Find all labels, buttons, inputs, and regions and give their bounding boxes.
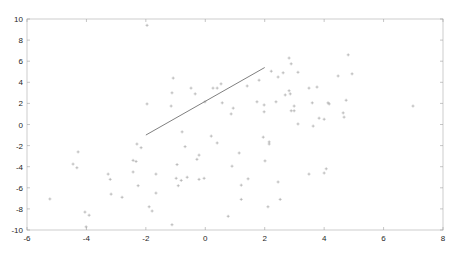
y-tick-label: -2 xyxy=(16,142,24,151)
data-point xyxy=(290,62,293,65)
data-point xyxy=(135,143,138,146)
data-point xyxy=(171,91,174,94)
data-point xyxy=(194,92,197,95)
data-point xyxy=(212,87,215,90)
data-point xyxy=(148,205,151,208)
data-point xyxy=(227,215,230,218)
data-point xyxy=(270,70,273,73)
x-tick-label: -6 xyxy=(23,234,31,243)
data-point xyxy=(293,109,296,112)
data-point xyxy=(132,159,135,162)
data-point xyxy=(411,105,414,108)
data-point xyxy=(154,192,157,195)
y-tick-label: 6 xyxy=(19,57,24,66)
y-tick-label: -10 xyxy=(11,226,23,235)
data-point xyxy=(288,89,291,92)
y-tick-label: 2 xyxy=(19,99,24,108)
data-point xyxy=(345,99,348,102)
data-point xyxy=(268,143,271,146)
data-point xyxy=(240,198,243,201)
data-point xyxy=(230,112,233,115)
data-point xyxy=(146,24,149,27)
y-tick-label: -8 xyxy=(16,205,24,214)
data-point xyxy=(75,166,78,169)
data-point xyxy=(151,210,154,213)
data-point xyxy=(240,184,243,187)
data-point xyxy=(284,93,287,96)
data-point xyxy=(190,87,193,90)
data-point xyxy=(88,214,91,217)
data-point xyxy=(171,223,174,226)
data-point xyxy=(323,118,326,121)
data-point xyxy=(83,211,86,214)
data-point xyxy=(282,71,285,74)
x-axis-labels: -6-4-202468 xyxy=(23,234,445,243)
data-point xyxy=(180,179,183,182)
data-point xyxy=(203,177,206,180)
data-point xyxy=(316,86,319,89)
x-tick-label: 4 xyxy=(322,234,327,243)
y-tick-label: 0 xyxy=(19,121,24,130)
data-point xyxy=(172,77,175,80)
data-point xyxy=(289,92,292,95)
data-point xyxy=(318,117,321,120)
fit-line xyxy=(146,68,265,136)
x-tick-label: -4 xyxy=(83,234,91,243)
data-point xyxy=(246,84,249,87)
data-point xyxy=(121,196,124,199)
data-point xyxy=(347,53,350,56)
data-point xyxy=(275,100,278,103)
y-tick-label: 10 xyxy=(14,15,23,24)
data-point xyxy=(247,177,250,180)
scatter-chart: -6-4-202468 -10-8-6-4-20246810 xyxy=(0,0,460,254)
data-point xyxy=(175,177,178,180)
data-point xyxy=(220,82,223,85)
data-point xyxy=(110,193,113,196)
data-point xyxy=(263,103,266,106)
y-tick-label: 4 xyxy=(19,78,24,87)
data-point xyxy=(307,87,310,90)
x-tick-label: -2 xyxy=(142,234,150,243)
data-point xyxy=(198,178,201,181)
data-point xyxy=(232,107,235,110)
plot-frame xyxy=(27,19,443,230)
data-point xyxy=(146,102,149,105)
x-tick-label: 8 xyxy=(441,234,446,243)
data-point xyxy=(351,72,354,75)
scatter-points xyxy=(48,24,414,229)
data-point xyxy=(85,225,88,228)
data-point xyxy=(255,100,258,103)
data-point xyxy=(221,101,224,104)
y-tick-label: -4 xyxy=(16,163,24,172)
y-tick-label: 8 xyxy=(19,36,24,45)
data-point xyxy=(293,105,296,108)
data-point xyxy=(170,105,173,108)
y-tick-label: -6 xyxy=(16,184,24,193)
data-point xyxy=(277,180,280,183)
data-point xyxy=(279,198,282,201)
data-point xyxy=(264,159,267,162)
data-point xyxy=(210,135,213,138)
data-point xyxy=(288,57,291,60)
data-point xyxy=(72,163,75,166)
data-point xyxy=(323,172,326,175)
data-point xyxy=(263,110,266,113)
data-point xyxy=(342,111,345,114)
data-point xyxy=(238,151,241,154)
data-point xyxy=(277,76,280,79)
data-point xyxy=(184,145,187,148)
data-point xyxy=(154,173,157,176)
data-point xyxy=(262,136,265,139)
data-point xyxy=(186,176,189,179)
data-point xyxy=(216,87,219,90)
data-point xyxy=(109,178,112,181)
data-point xyxy=(176,163,179,166)
data-point xyxy=(140,146,143,149)
data-point xyxy=(195,158,198,161)
axis-ticks xyxy=(27,19,443,230)
data-point xyxy=(311,101,314,104)
data-point xyxy=(231,165,234,168)
data-point xyxy=(337,74,340,77)
data-point xyxy=(325,167,328,170)
data-point xyxy=(48,197,51,200)
